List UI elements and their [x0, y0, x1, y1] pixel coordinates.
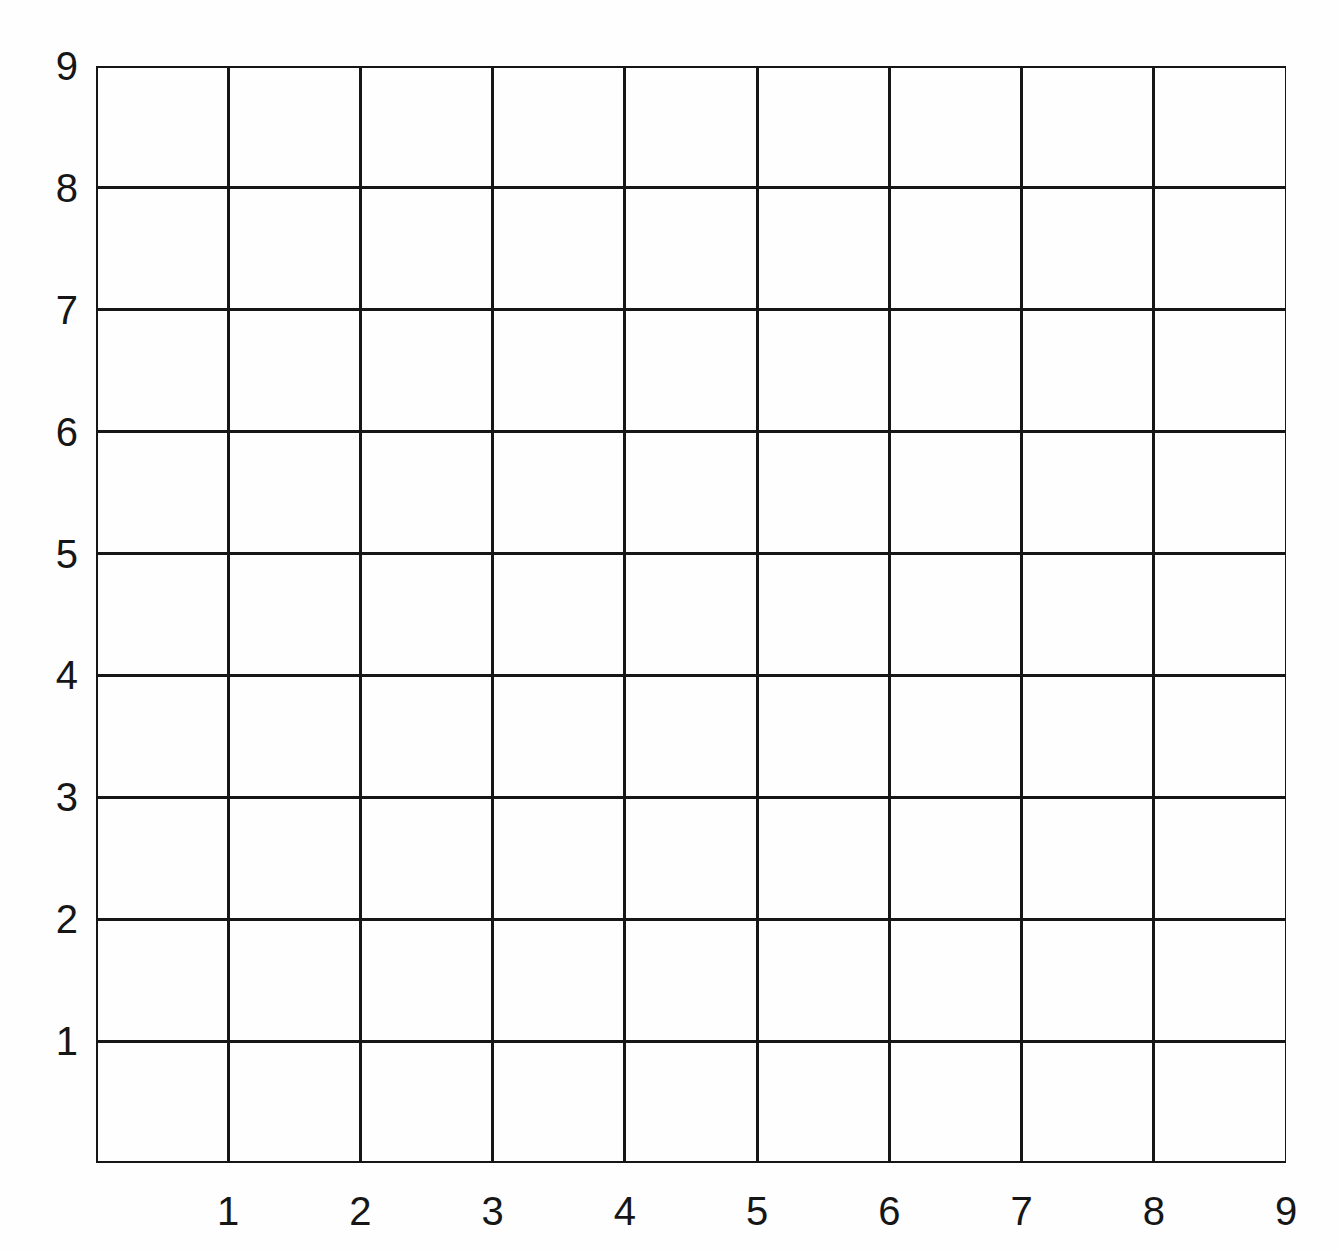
y-tick-label-3: 3: [32, 777, 78, 817]
y-tick-label-1: 1: [32, 1021, 78, 1061]
x-tick-label-4: 4: [595, 1191, 655, 1231]
x-tick-label-5: 5: [727, 1191, 787, 1231]
graph-paper-figure: 123456789 123456789: [0, 0, 1338, 1251]
x-tick-label-6: 6: [859, 1191, 919, 1231]
y-tick-label-4: 4: [32, 655, 78, 695]
x-tick-label-9: 9: [1256, 1191, 1316, 1231]
y-tick-label-6: 6: [32, 412, 78, 452]
x-tick-label-8: 8: [1124, 1191, 1184, 1231]
y-tick-label-2: 2: [32, 899, 78, 939]
y-tick-label-5: 5: [32, 534, 78, 574]
x-tick-label-1: 1: [198, 1191, 258, 1231]
grid-lines: [96, 66, 1286, 1163]
x-tick-label-7: 7: [992, 1191, 1052, 1231]
x-tick-label-2: 2: [330, 1191, 390, 1231]
y-tick-label-7: 7: [32, 290, 78, 330]
x-tick-label-3: 3: [463, 1191, 523, 1231]
axis-lines: [96, 66, 1286, 1163]
vertical-grid-lines: [228, 66, 1286, 1163]
y-tick-label-9: 9: [32, 46, 78, 86]
y-tick-label-8: 8: [32, 168, 78, 208]
horizontal-grid-lines: [96, 66, 1286, 1041]
plot-area: [96, 66, 1286, 1163]
